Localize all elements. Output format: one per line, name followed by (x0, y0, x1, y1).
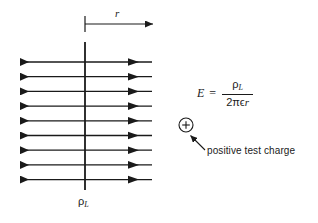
field-line-row (20, 176, 152, 184)
radial-distance-label: r (115, 8, 119, 19)
field-line-row (20, 132, 152, 140)
denominator-constants: 2πϵ (226, 96, 245, 108)
equation-denominator: 2πϵr (222, 95, 253, 108)
line-charge-field-figure: r ρL E = ρL 2πϵr positive test charge (0, 0, 318, 223)
field-line-right-arrowhead (128, 102, 139, 110)
denominator-radius-var: r (245, 96, 249, 108)
field-line-row (20, 117, 152, 125)
equation-numerator: ρL (228, 79, 247, 94)
figure-canvas (0, 0, 318, 223)
field-line-right-arrowhead (128, 73, 139, 81)
field-line-right-arrowhead (128, 161, 139, 169)
field-line-row (20, 58, 152, 66)
line-charge-density-label: ρL (78, 196, 89, 209)
test-charge-caption: positive test charge (207, 146, 295, 156)
rho-subscript: L (84, 200, 88, 209)
field-line-right-arrowhead (128, 117, 139, 125)
field-line-row (20, 102, 152, 110)
equation-equals-sign: = (209, 86, 216, 101)
field-line-right-arrowhead (128, 132, 139, 140)
field-line-row (20, 161, 152, 169)
numerator-rho-subscript: L (238, 83, 242, 92)
field-line-row (20, 88, 152, 96)
field-line-row (20, 73, 152, 81)
positive-test-charge-icon (179, 118, 193, 132)
field-line-row (20, 146, 152, 154)
equation-fraction: ρL 2πϵr (222, 79, 253, 108)
caption-pointer-arrow (191, 136, 206, 151)
field-line-right-arrowhead (128, 58, 139, 66)
field-line-right-arrowhead (128, 88, 139, 96)
field-equation: E = ρL 2πϵr (197, 79, 253, 108)
equation-lhs: E (197, 86, 204, 101)
field-lines-group (20, 58, 152, 183)
field-line-right-arrowhead (128, 176, 139, 184)
field-line-right-arrowhead (128, 146, 139, 154)
